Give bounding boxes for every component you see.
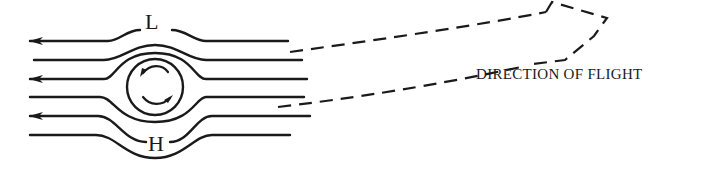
streamline-1: [30, 30, 288, 41]
flight-path-upper: [290, 12, 546, 52]
rotation-arrow-top-icon: [143, 66, 168, 73]
spinning-cylinder: [127, 59, 183, 115]
streamline-3: [30, 53, 307, 79]
streamline-2: [34, 45, 302, 60]
magnus-diagram: L H DIRECTION OF FLIGHT: [0, 0, 709, 172]
low-pressure-label: L: [145, 9, 158, 35]
diagram-canvas: [0, 0, 709, 172]
direction-of-flight-label: DIRECTION OF FLIGHT: [476, 66, 643, 83]
high-pressure-label: H: [148, 131, 164, 157]
